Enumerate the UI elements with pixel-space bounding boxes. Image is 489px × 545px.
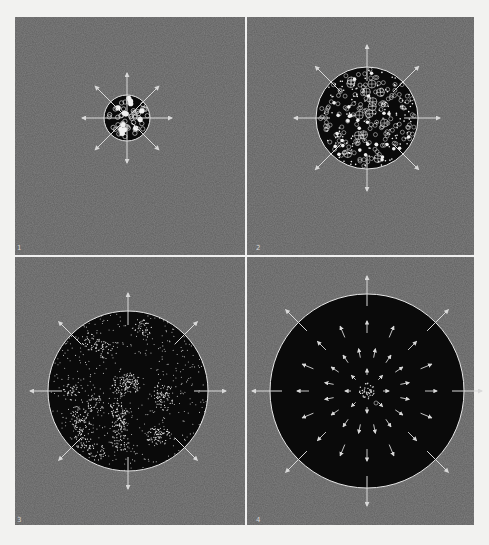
panel-3-label: 3 (17, 516, 21, 524)
panel-1 (82, 73, 172, 163)
panel-4 (252, 276, 482, 506)
panel-2 (294, 45, 440, 191)
panel-2-label: 2 (256, 244, 260, 252)
expanding-universe-figure: 1 2 3 4 (0, 0, 489, 545)
panel-3 (30, 293, 226, 489)
panel-1-label: 1 (17, 244, 21, 252)
panel-4-label: 4 (256, 516, 261, 524)
